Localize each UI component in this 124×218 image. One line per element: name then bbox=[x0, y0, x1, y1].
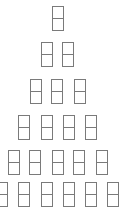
pyramid-cell-r6-c5 bbox=[85, 182, 97, 207]
pyramid-cell-r4-c3 bbox=[63, 115, 75, 140]
cell-divider bbox=[19, 127, 29, 128]
cell-divider bbox=[86, 194, 96, 195]
cell-divider bbox=[31, 91, 41, 92]
pyramid-cell-r5-c4 bbox=[73, 150, 85, 175]
pyramid-cell-r5-c5 bbox=[96, 150, 108, 175]
pyramid-cell-r2-c1 bbox=[41, 42, 53, 67]
pyramid-cell-r5-c1 bbox=[8, 150, 20, 175]
cell-divider bbox=[63, 54, 73, 55]
cell-divider bbox=[0, 194, 7, 195]
cell-divider bbox=[74, 162, 84, 163]
cell-divider bbox=[53, 162, 63, 163]
cell-divider bbox=[64, 194, 74, 195]
pyramid-cell-r6-c1 bbox=[0, 182, 8, 207]
pyramid-cell-r4-c2 bbox=[41, 115, 53, 140]
pyramid-cell-r6-c3 bbox=[41, 182, 53, 207]
pyramid-cell-r3-c2 bbox=[51, 79, 63, 104]
cell-divider bbox=[42, 194, 52, 195]
cell-divider bbox=[75, 91, 85, 92]
cell-divider bbox=[86, 127, 96, 128]
cell-divider bbox=[19, 194, 29, 195]
cell-divider bbox=[64, 127, 74, 128]
cell-divider bbox=[52, 91, 62, 92]
cell-divider bbox=[30, 162, 40, 163]
cell-divider bbox=[108, 194, 118, 195]
cell-divider bbox=[9, 162, 19, 163]
pyramid-cell-r4-c1 bbox=[18, 115, 30, 140]
pyramid-cell-r2-c2 bbox=[62, 42, 74, 67]
cell-divider bbox=[97, 162, 107, 163]
pyramid-cell-r5-c3 bbox=[52, 150, 64, 175]
pyramid-cell-r3-c1 bbox=[30, 79, 42, 104]
pyramid-cell-r6-c4 bbox=[63, 182, 75, 207]
pyramid-cell-r4-c4 bbox=[85, 115, 97, 140]
pyramid-cell-r1-c1 bbox=[52, 6, 64, 31]
pyramid-cell-r5-c2 bbox=[29, 150, 41, 175]
cell-divider bbox=[53, 18, 63, 19]
pyramid-cell-r6-c2 bbox=[18, 182, 30, 207]
pyramid-cell-r3-c3 bbox=[74, 79, 86, 104]
pyramid-cell-r6-c6 bbox=[107, 182, 119, 207]
cell-divider bbox=[42, 54, 52, 55]
cell-divider bbox=[42, 127, 52, 128]
